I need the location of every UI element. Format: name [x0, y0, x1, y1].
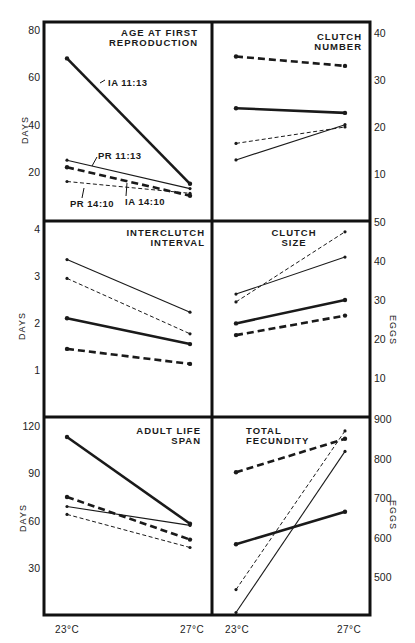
data-point-marker: [343, 256, 346, 259]
data-point-marker: [188, 524, 191, 527]
data-point-marker: [234, 470, 238, 474]
figure-grid: 20406080AGE AT FIRSTREPRODUCTION10203040…: [0, 0, 415, 643]
y-axis-title-eggs-bottom: EGGS: [388, 500, 398, 530]
data-point-marker: [188, 311, 191, 314]
data-point-marker: [234, 542, 238, 546]
series-line-ia-11-13: [236, 108, 345, 113]
y-tick-label: 30: [374, 294, 386, 306]
y-tick-label: 20: [28, 166, 40, 178]
series-line-ia-14-10: [67, 349, 190, 364]
data-point-marker: [343, 429, 346, 432]
y-tick-label: 1: [34, 364, 40, 376]
series-label-pr-14-10: PR 14:10: [70, 198, 114, 209]
data-point-marker: [65, 165, 69, 169]
series-line-ia-14-10: [236, 57, 345, 66]
y-axis-title-days-top: DAYS: [20, 116, 30, 144]
panel-total-fecundity: 500600700800900TOTALFECUNDITY: [234, 413, 392, 614]
data-point-marker: [65, 347, 69, 351]
data-point-marker: [234, 300, 237, 303]
series-line-ia-14-10: [236, 316, 345, 336]
x-label-right-23c: 23°C: [225, 624, 249, 635]
data-point-marker: [65, 180, 68, 183]
labels-layer: 23°C 27°C 23°C 27°C DAYS DAYS DAYS EGGS …: [17, 77, 398, 635]
y-tick-label: 50: [374, 216, 386, 228]
y-tick-label: 20: [374, 121, 386, 133]
series-line-ia-11-13: [236, 300, 345, 323]
series-leader-ia-11-13: [100, 80, 105, 83]
panel-clutch-size: 1020304050CLUTCHSIZE: [234, 216, 386, 384]
y-axis-title-eggs-middle: EGGS: [388, 315, 398, 345]
data-point-marker: [65, 56, 69, 60]
data-point-marker: [65, 435, 69, 439]
data-point-marker: [234, 54, 238, 58]
series-label-ia-14-10: IA 14:10: [125, 196, 165, 207]
panel-title: NUMBER: [314, 41, 362, 52]
panel-title: INTERVAL: [150, 237, 205, 248]
data-point-marker: [343, 437, 347, 441]
y-tick-label: 80: [28, 24, 40, 36]
panel-title: REPRODUCTION: [109, 37, 198, 48]
data-point-marker: [65, 505, 68, 508]
data-point-marker: [343, 313, 347, 317]
data-point-marker: [188, 192, 191, 195]
data-point-marker: [343, 510, 347, 514]
data-point-marker: [188, 182, 192, 186]
data-point-marker: [343, 298, 347, 302]
data-point-marker: [234, 333, 238, 337]
x-label-right-27c: 27°C: [337, 624, 361, 635]
panel-title: SPAN: [171, 435, 201, 446]
data-point-marker: [65, 159, 68, 162]
y-tick-label: 10: [374, 168, 386, 180]
series-line-ia-11-13: [67, 437, 190, 524]
data-point-marker: [234, 588, 237, 591]
data-point-marker: [65, 277, 68, 280]
panel-adult-life-span: 306090120ADULT LIFESPAN: [22, 420, 201, 574]
y-tick-label: 600: [374, 532, 392, 544]
data-point-marker: [343, 111, 347, 115]
data-point-marker: [234, 293, 237, 296]
data-point-marker: [65, 258, 68, 261]
data-point-marker: [188, 537, 192, 541]
y-axis-title-days-middle: DAYS: [17, 312, 27, 340]
data-point-marker: [188, 332, 191, 335]
panel-title: FECUNDITY: [246, 435, 309, 446]
y-tick-label: 60: [28, 515, 40, 527]
panel-interclutch-interval: 1234INTERCLUTCHINTERVAL: [34, 223, 205, 376]
data-point-marker: [343, 64, 347, 68]
series-line-pr-11-13: [236, 451, 345, 612]
series-line-pr-11-13: [67, 260, 190, 313]
series-leader-ia-14-10: [126, 183, 127, 196]
y-tick-label: 40: [374, 27, 386, 39]
series-label-ia-11-13: IA 11:13: [108, 77, 148, 88]
y-tick-label: 30: [374, 74, 386, 86]
series-line-ia-11-13: [236, 512, 345, 544]
data-point-marker: [188, 546, 191, 549]
data-point-marker: [234, 106, 238, 110]
y-tick-label: 20: [374, 333, 386, 345]
data-point-marker: [234, 158, 237, 161]
data-point-marker: [188, 187, 191, 190]
data-point-marker: [343, 230, 346, 233]
y-axis-title-days-bottom: DAYS: [18, 504, 28, 532]
series-line-pr-14-10: [67, 278, 190, 333]
y-tick-label: 30: [28, 562, 40, 574]
data-point-marker: [343, 450, 346, 453]
series-label-pr-11-13: PR 11:13: [98, 150, 142, 161]
data-point-marker: [65, 316, 69, 320]
data-point-marker: [188, 362, 192, 366]
series-line-ia-11-13: [67, 318, 190, 344]
series-line-pr-14-10: [236, 127, 345, 143]
y-tick-label: 40: [374, 255, 386, 267]
y-tick-label: 10: [374, 372, 386, 384]
data-point-marker: [343, 125, 346, 128]
data-point-marker: [234, 142, 237, 145]
y-tick-label: 3: [34, 270, 40, 282]
data-point-marker: [65, 495, 69, 499]
y-tick-label: 120: [22, 420, 40, 432]
y-tick-label: 500: [374, 571, 392, 583]
data-point-marker: [65, 513, 68, 516]
y-tick-label: 4: [34, 223, 40, 235]
panel-title: SIZE: [281, 237, 306, 248]
panels-layer: 20406080AGE AT FIRSTREPRODUCTION10203040…: [22, 24, 391, 614]
series-leader-pr-14-10: [82, 188, 84, 198]
